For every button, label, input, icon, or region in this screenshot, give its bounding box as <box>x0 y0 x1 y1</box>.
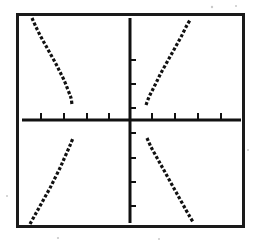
coordinate-plot <box>0 0 257 244</box>
graph-figure <box>0 0 257 244</box>
